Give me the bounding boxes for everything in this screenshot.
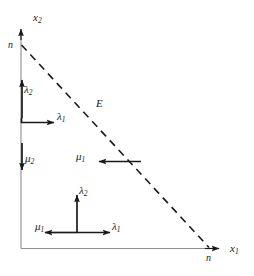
- vector-label-bottom-mu1: μ1: [35, 221, 44, 234]
- diagram-canvas: [0, 0, 254, 276]
- vector-label-left-mu2: μ2: [25, 153, 34, 166]
- x-axis-label: x1: [230, 243, 239, 256]
- vector-label-left-lambda2: λ2: [24, 84, 33, 97]
- vector-label-mid-mu1: μ1: [76, 151, 85, 164]
- vector-label-bottom-lambda2: λ2: [79, 185, 88, 198]
- simplex-diagram: x2 x1 n n E λ2 λ1 μ2 μ1 λ2 μ1 λ1: [0, 0, 254, 276]
- boundary-line-E: [22, 45, 210, 248]
- vector-label-left-lambda1: λ1: [57, 111, 66, 124]
- y-axis-label: x2: [33, 12, 42, 25]
- x-axis-tick-label-n: n: [206, 253, 211, 263]
- boundary-label-E: E: [96, 98, 103, 109]
- y-axis-tick-label-n: n: [8, 40, 13, 50]
- vector-label-bottom-lambda1: λ1: [112, 221, 121, 234]
